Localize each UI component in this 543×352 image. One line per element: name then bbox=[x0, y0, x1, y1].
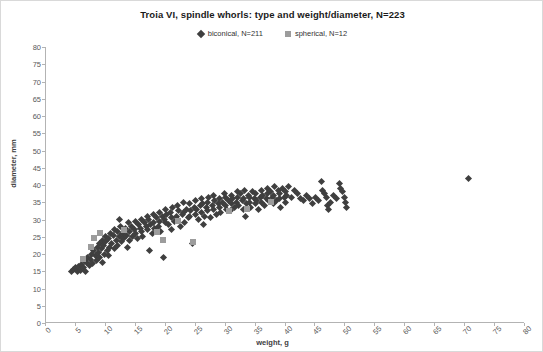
data-point bbox=[215, 200, 222, 207]
chart-title: Troia VI, spindle whorls: type and weigh… bbox=[1, 9, 543, 20]
data-point bbox=[222, 194, 229, 201]
data-point bbox=[125, 219, 132, 226]
chart-legend: biconical, N=211 spherical, N=12 bbox=[1, 30, 543, 38]
data-point bbox=[92, 252, 99, 259]
data-point bbox=[339, 188, 346, 195]
data-point bbox=[252, 190, 259, 197]
data-point bbox=[135, 221, 142, 228]
data-point bbox=[249, 188, 256, 195]
data-point bbox=[312, 194, 319, 201]
data-point bbox=[216, 204, 223, 211]
data-point bbox=[94, 244, 101, 251]
data-point bbox=[116, 216, 123, 223]
y-tick-label: 55 bbox=[33, 129, 41, 138]
data-point bbox=[277, 204, 284, 211]
data-point bbox=[185, 214, 192, 221]
data-point bbox=[144, 226, 151, 233]
data-point bbox=[68, 268, 75, 275]
data-point bbox=[261, 202, 268, 209]
data-point bbox=[327, 199, 334, 206]
data-point bbox=[270, 200, 277, 207]
y-tick-label: 45 bbox=[33, 163, 41, 172]
data-point bbox=[187, 207, 194, 214]
data-point bbox=[273, 197, 280, 204]
data-point bbox=[180, 199, 187, 206]
data-point bbox=[87, 256, 94, 263]
data-point bbox=[275, 187, 282, 194]
data-point bbox=[324, 202, 331, 209]
y-tick-label: 65 bbox=[33, 94, 41, 103]
data-point bbox=[270, 192, 277, 199]
data-point bbox=[153, 214, 160, 221]
data-point bbox=[333, 195, 340, 202]
data-point bbox=[219, 199, 226, 206]
data-point bbox=[186, 200, 193, 207]
y-tick-label: 20 bbox=[33, 250, 41, 259]
data-point bbox=[111, 226, 118, 233]
data-point bbox=[144, 213, 151, 220]
y-tick-label: 60 bbox=[33, 112, 41, 121]
data-point bbox=[146, 247, 153, 254]
data-point bbox=[147, 221, 154, 228]
data-point bbox=[97, 230, 103, 236]
data-point bbox=[179, 211, 186, 218]
data-point bbox=[227, 207, 234, 214]
data-point bbox=[117, 223, 124, 230]
data-point bbox=[99, 259, 106, 266]
data-point bbox=[246, 194, 253, 201]
x-tick-label: 0 bbox=[44, 326, 53, 335]
data-point bbox=[157, 228, 164, 235]
data-point bbox=[156, 218, 163, 225]
legend-label-spherical: spherical, N=12 bbox=[295, 30, 347, 38]
data-point bbox=[101, 250, 108, 257]
data-point bbox=[155, 223, 162, 230]
legend-item-biconical[interactable]: biconical, N=211 bbox=[198, 30, 263, 38]
data-point bbox=[226, 208, 232, 214]
legend-label-biconical: biconical, N=211 bbox=[208, 30, 263, 38]
data-point bbox=[102, 238, 109, 245]
data-point bbox=[150, 211, 157, 218]
data-point bbox=[228, 200, 235, 207]
data-point bbox=[239, 197, 246, 204]
data-point bbox=[309, 200, 316, 207]
data-point bbox=[241, 187, 248, 194]
data-point bbox=[337, 185, 344, 192]
data-points-layer bbox=[46, 47, 524, 322]
data-point bbox=[199, 200, 206, 207]
data-point bbox=[253, 197, 260, 204]
y-tick-label: 80 bbox=[33, 43, 41, 52]
data-point bbox=[116, 233, 123, 240]
data-point bbox=[198, 195, 205, 202]
data-point bbox=[271, 183, 278, 190]
data-point bbox=[223, 206, 230, 213]
data-point bbox=[264, 190, 271, 197]
data-point bbox=[318, 178, 325, 185]
data-point bbox=[217, 209, 224, 216]
data-point bbox=[90, 247, 97, 254]
data-point bbox=[89, 260, 96, 267]
y-axis-title: diameter, mm bbox=[9, 129, 18, 199]
data-point bbox=[209, 202, 216, 209]
data-point bbox=[244, 206, 250, 212]
data-point bbox=[221, 190, 228, 197]
y-tick-label: 10 bbox=[33, 284, 41, 293]
data-point bbox=[99, 237, 106, 244]
data-point bbox=[96, 240, 103, 247]
y-tick-label: 5 bbox=[37, 301, 41, 310]
data-point bbox=[234, 188, 241, 195]
chart-container: Troia VI, spindle whorls: type and weigh… bbox=[0, 0, 543, 352]
data-point bbox=[113, 237, 120, 244]
data-point bbox=[264, 185, 271, 192]
data-point bbox=[282, 199, 289, 206]
legend-item-spherical[interactable]: spherical, N=12 bbox=[285, 30, 347, 38]
data-point bbox=[143, 223, 150, 230]
data-point bbox=[251, 195, 258, 202]
data-point bbox=[263, 195, 270, 202]
data-point bbox=[283, 192, 290, 199]
data-point bbox=[120, 235, 127, 242]
data-point bbox=[258, 199, 265, 206]
data-point bbox=[175, 218, 181, 224]
data-point bbox=[276, 190, 283, 197]
data-point bbox=[77, 267, 84, 274]
data-point bbox=[105, 252, 112, 259]
